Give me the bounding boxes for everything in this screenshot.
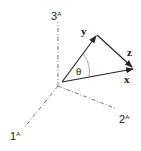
angle-arc: [83, 54, 89, 77]
axis-1-line: [24, 86, 58, 128]
axis-1-label: 1A: [10, 130, 20, 142]
angle-theta-label: θ: [76, 65, 81, 77]
vector-x-arrow: [62, 69, 133, 82]
vector-y-label: y: [81, 25, 87, 37]
vector-x-label: x: [124, 73, 130, 85]
coordinate-diagram: 3A 1A 2A y z x θ: [0, 0, 141, 151]
axis-2-line: [58, 86, 117, 109]
vector-z-label: z: [127, 46, 132, 58]
axis-3-label: 3A: [51, 10, 61, 22]
axis-2-label: 2A: [119, 113, 129, 125]
